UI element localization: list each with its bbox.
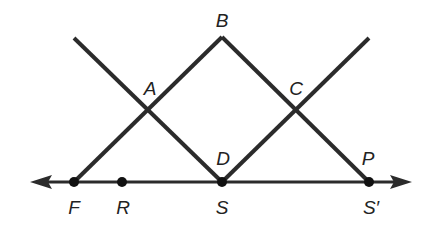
label-P: P xyxy=(362,148,375,169)
point-S xyxy=(217,177,227,187)
label-R: R xyxy=(116,197,130,218)
label-B: B xyxy=(216,10,229,31)
label-S-prime: S′ xyxy=(363,197,381,218)
point-S-prime xyxy=(364,177,374,187)
label-A: A xyxy=(143,78,157,99)
label-D: D xyxy=(216,148,230,169)
point-F xyxy=(69,177,79,187)
label-S: S xyxy=(216,197,229,218)
label-F: F xyxy=(68,197,81,218)
label-C: C xyxy=(289,78,303,99)
geometry-diagram: B A C D P F R S S′ xyxy=(0,0,422,227)
point-R xyxy=(117,177,127,187)
